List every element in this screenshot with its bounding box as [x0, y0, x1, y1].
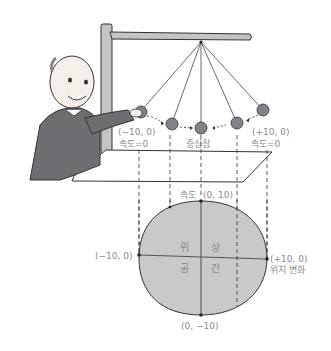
pendulum-phase-diagram: (−10, 0) 속도=0 중심점 (+10, 0) 속도=0 속도 (0, 1…	[0, 0, 331, 351]
label-quad-bl: 공	[180, 263, 189, 274]
label-quad-tl: 위	[180, 241, 189, 253]
label-left-point: (−10, 0)	[95, 251, 132, 261]
label-bottom-point: (0, −10)	[181, 321, 218, 331]
label-center-point: 중심점	[186, 138, 210, 149]
label-top-point: (0, 10)	[203, 190, 233, 200]
table-plane	[72, 150, 272, 182]
label-left-position: (−10, 0)	[118, 127, 155, 137]
label-left-speed: 속도=0	[119, 139, 149, 149]
label-position-axis: 위치 변화	[270, 264, 305, 275]
label-right-position: (+10, 0)	[252, 127, 289, 137]
label-speed-axis: 속도	[180, 190, 196, 200]
label-quad-tr: 상	[211, 242, 220, 253]
pendulum-strings	[141, 42, 263, 127]
pivot-point	[199, 40, 202, 43]
label-quad-br: 간	[211, 263, 220, 274]
label-right-speed: 속도=0	[251, 139, 281, 149]
label-right-point: (+10, 0)	[270, 254, 307, 264]
